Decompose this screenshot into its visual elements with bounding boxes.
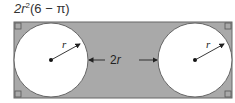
geometry-diagram: r r 2r bbox=[0, 0, 235, 103]
distance-label: 2r bbox=[110, 53, 122, 67]
right-radius-label: r bbox=[206, 38, 211, 50]
left-radius-label: r bbox=[62, 38, 67, 50]
